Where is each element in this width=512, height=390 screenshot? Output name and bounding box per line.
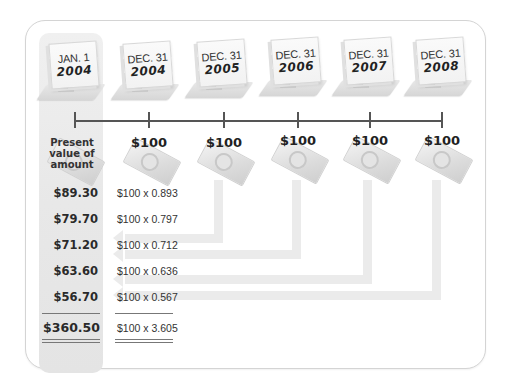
calendar-year: 2004: [125, 62, 172, 79]
double-rule: [42, 342, 100, 343]
desk-calendar-icon: DEC. 312006: [260, 32, 324, 102]
calendar-year: 2007: [346, 58, 393, 75]
timeline-tick: [74, 112, 76, 128]
formula-cell: $100 x 0.893: [117, 187, 178, 199]
formula-cell: $100 x 0.712: [117, 239, 178, 251]
timeline-axis: [75, 120, 443, 122]
desk-calendar-icon: DEC. 312004: [112, 36, 176, 106]
double-rule: [42, 339, 100, 340]
total-present-value: $360.50: [36, 320, 100, 335]
double-rule: [115, 339, 173, 340]
desk-calendar-icon: DEC. 312005: [186, 34, 250, 104]
timeline-tick: [369, 112, 371, 128]
calendar-year: 2004: [51, 62, 98, 79]
present-value-cell: $63.60: [40, 264, 98, 278]
timeline-tick: [441, 112, 443, 128]
connector-vertical: [363, 180, 372, 284]
sum-rule: [42, 313, 100, 314]
timeline-tick: [148, 112, 150, 128]
payment-amount: $100: [340, 133, 400, 148]
present-value-cell: $71.20: [40, 238, 98, 252]
total-formula: $100 x 3.605: [117, 322, 178, 334]
timeline-tick: [297, 112, 299, 128]
payment-amount: $100: [194, 135, 254, 150]
sum-rule: [115, 313, 173, 314]
calendar-year: 2006: [273, 58, 320, 75]
present-value-cell: $56.70: [40, 290, 98, 304]
present-value-cell: $89.30: [40, 186, 98, 200]
connector-vertical: [432, 180, 441, 300]
calendar-year: 2008: [418, 58, 465, 75]
timeline-tick: [223, 112, 225, 128]
desk-calendar-icon: DEC. 312007: [333, 32, 397, 102]
double-rule: [115, 342, 173, 343]
connector-horizontal: [125, 250, 301, 259]
payment-amount: $100: [412, 133, 472, 148]
formula-cell: $100 x 0.636: [117, 265, 178, 277]
connector-vertical: [292, 180, 301, 259]
payment-amount: $100: [268, 133, 328, 148]
formula-cell: $100 x 0.797: [117, 213, 178, 225]
present-value-cell: $79.70: [40, 212, 98, 226]
desk-calendar-icon: DEC. 312008: [405, 32, 469, 102]
present-value-label: Present value of amount: [42, 137, 102, 170]
desk-calendar-icon: JAN. 12004: [38, 36, 102, 106]
payment-amount: $100: [119, 135, 179, 150]
calendar-year: 2005: [199, 60, 246, 77]
formula-cell: $100 x 0.567: [117, 291, 178, 303]
